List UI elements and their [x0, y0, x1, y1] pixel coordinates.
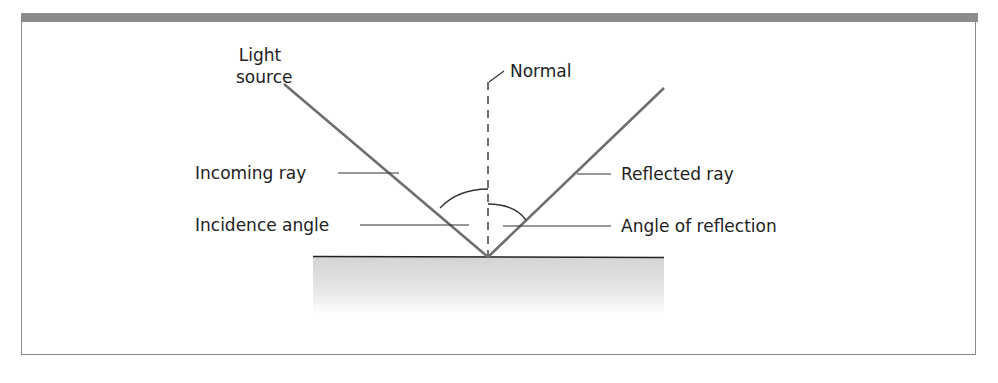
incidence-angle-arc [440, 189, 488, 208]
incidence-angle-label: Incidence angle [195, 215, 329, 235]
reflection-angle-arc [488, 204, 526, 220]
reflection-diagram [0, 0, 998, 383]
light-source-label-line2: source [236, 67, 284, 87]
incoming-ray-label: Incoming ray [195, 163, 306, 183]
surface-shading [313, 257, 664, 315]
light-source-label-line1: Light [236, 45, 284, 65]
normal-leader [489, 71, 504, 82]
normal-label: Normal [510, 61, 572, 81]
angle-of-reflection-label: Angle of reflection [621, 216, 777, 236]
reflected-ray-label: Reflected ray [621, 164, 734, 184]
